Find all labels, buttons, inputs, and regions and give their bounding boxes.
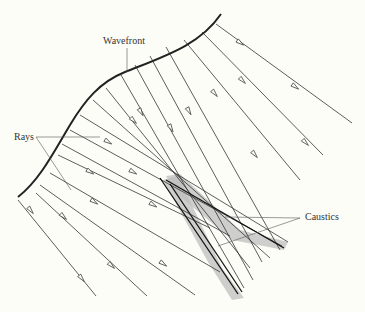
diagram-graphic (0, 0, 365, 312)
caustics-label: Caustics (305, 211, 339, 222)
rays-label: Rays (14, 131, 34, 142)
caustics-diagram: Wavefront Rays Caustics (0, 0, 365, 312)
wavefront-label: Wavefront (103, 35, 145, 46)
leader-lines (36, 48, 300, 246)
rays (18, 24, 352, 296)
